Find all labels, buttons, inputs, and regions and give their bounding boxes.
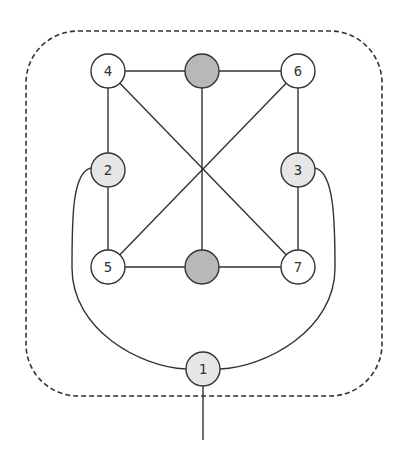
- edge-2-1-curve: [72, 168, 186, 369]
- node-label: 7: [294, 259, 302, 275]
- node-bottom-shaded: [185, 250, 219, 284]
- node-3: 3: [281, 153, 315, 187]
- node-1: 1: [186, 352, 220, 386]
- edge-3-1-curve: [220, 168, 335, 369]
- node-label: 3: [294, 162, 302, 178]
- node-label: 4: [104, 63, 112, 79]
- node-top-shaded: [185, 54, 219, 88]
- graph-diagram: 4 6 2 3 5 7 1: [0, 0, 405, 458]
- node-label: 1: [199, 361, 207, 377]
- node-4: 4: [91, 54, 125, 88]
- node-2: 2: [91, 153, 125, 187]
- node-7: 7: [281, 250, 315, 284]
- node-label: 2: [104, 162, 112, 178]
- node-label: 6: [294, 63, 302, 79]
- node-label: 5: [104, 259, 112, 275]
- node-6: 6: [281, 54, 315, 88]
- node-5: 5: [91, 250, 125, 284]
